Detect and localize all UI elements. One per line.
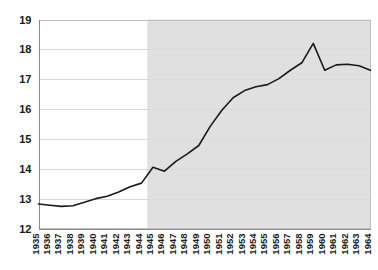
- x-tick-label: 1961: [327, 233, 338, 255]
- x-tick-label: 1952: [224, 234, 235, 255]
- y-tick-label: 13: [19, 193, 31, 205]
- x-tick-label: 1962: [339, 234, 350, 255]
- x-tick-label: 1960: [316, 234, 327, 255]
- x-tick-label: 1954: [247, 233, 258, 255]
- x-tick-label: 1940: [87, 234, 98, 255]
- x-tick-label: 1963: [350, 234, 361, 255]
- x-tick-label: 1950: [201, 234, 212, 255]
- x-tick-label: 1957: [281, 234, 292, 255]
- y-tick-label: 19: [19, 14, 31, 26]
- chart-page: 1213141516171819193519361937193819391940…: [0, 0, 378, 270]
- y-tick-label: 14: [19, 163, 32, 175]
- x-tick-label: 1937: [52, 234, 63, 255]
- x-tick-label: 1949: [190, 234, 201, 255]
- x-tick-label: 1955: [258, 233, 269, 255]
- y-tick-label: 16: [19, 103, 31, 115]
- x-tick-label: 1947: [167, 234, 178, 255]
- y-axis-tick-labels: 1213141516171819: [19, 14, 32, 235]
- x-tick-label: 1951: [213, 233, 224, 255]
- x-tick-label: 1938: [64, 234, 75, 255]
- x-tick-label: 1964: [362, 233, 373, 255]
- shaded-region-postwar: [147, 20, 370, 229]
- x-axis-tick-labels: 1935193619371938193919401941194219431944…: [30, 233, 373, 255]
- line-chart: 1213141516171819193519361937193819391940…: [0, 0, 378, 270]
- x-tick-label: 1959: [304, 234, 315, 255]
- y-tick-label: 15: [19, 133, 31, 145]
- x-tick-label: 1943: [121, 234, 132, 255]
- x-tick-label: 1956: [270, 234, 281, 255]
- x-tick-label: 1958: [293, 234, 304, 255]
- x-tick-label: 1945: [144, 233, 155, 255]
- x-tick-label: 1941: [98, 233, 109, 255]
- y-tick-label: 18: [19, 43, 31, 55]
- x-tick-label: 1946: [155, 234, 166, 255]
- x-tick-label: 1953: [236, 234, 247, 255]
- x-tick-label: 1944: [133, 233, 144, 255]
- x-tick-label: 1942: [110, 234, 121, 255]
- y-tick-label: 17: [19, 73, 31, 85]
- x-tick-label: 1935: [30, 233, 41, 255]
- x-tick-label: 1936: [41, 234, 52, 255]
- y-tick-label: 12: [19, 223, 31, 235]
- x-tick-label: 1948: [178, 234, 189, 255]
- x-tick-label: 1939: [75, 234, 86, 255]
